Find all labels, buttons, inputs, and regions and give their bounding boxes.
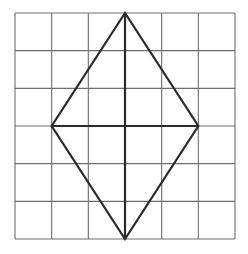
- rhombus-grid-diagram: [0, 0, 248, 254]
- rhombus-shape: [52, 13, 199, 239]
